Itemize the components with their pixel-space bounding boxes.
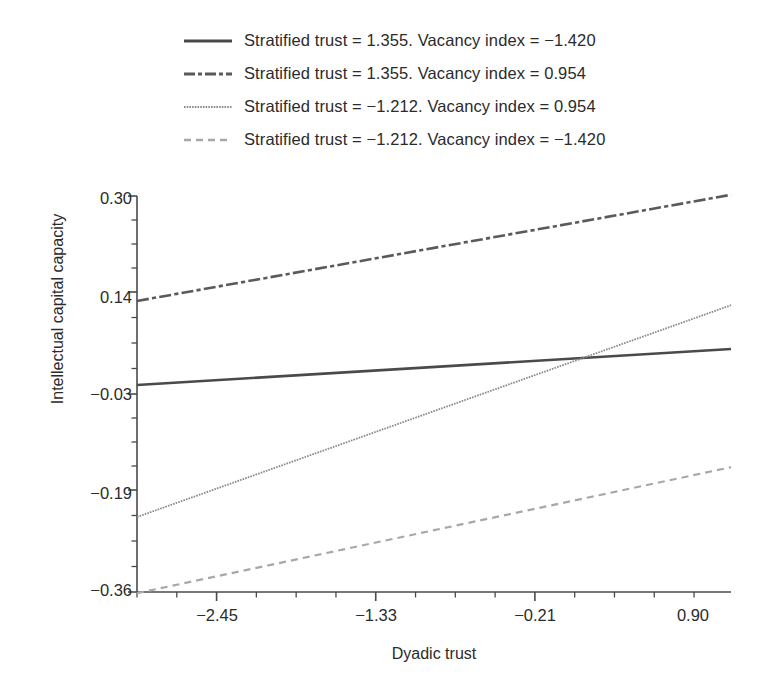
x-tick-labels: −2.45 −1.33 −0.21 0.90: [0, 606, 779, 636]
x-tick-label: −1.33: [331, 606, 421, 625]
y-axis-title: Intellectual capital capacity: [49, 159, 67, 459]
x-axis-title: Dyadic trust: [137, 645, 731, 663]
series-line-1: [137, 349, 731, 385]
axis-ticks: [128, 196, 694, 601]
data-series: [137, 195, 731, 593]
series-line-2: [137, 195, 731, 301]
x-tick-label: −0.21: [490, 606, 580, 625]
chart-figure: Stratified trust = 1.355. Vacancy index …: [0, 0, 779, 688]
x-tick-label: 0.90: [648, 606, 738, 625]
y-tick-label: −0.19: [52, 484, 132, 503]
series-line-3: [137, 305, 731, 517]
x-tick-label: −2.45: [172, 606, 262, 625]
axis-lines: [137, 196, 731, 592]
y-tick-label: −0.36: [52, 581, 132, 600]
